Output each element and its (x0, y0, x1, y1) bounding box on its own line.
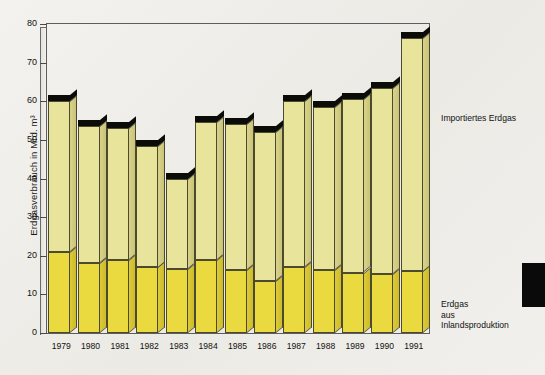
bar-segment-imported-1986 (254, 132, 276, 281)
bar-segment-domestic-1987 (283, 267, 305, 333)
bar-1980 (78, 120, 100, 333)
legend-item-domestic-gas: Erdgas aus Inlandsproduktion (441, 299, 509, 331)
y-axis-tick (40, 63, 47, 64)
bar-segment-domestic-1989 (342, 273, 364, 333)
y-axis-tick-label: 60 (11, 96, 37, 105)
bar-side-domestic-1987 (305, 261, 312, 333)
bar-cap-1987 (283, 95, 305, 101)
bar-segment-domestic-1985 (225, 270, 247, 333)
bar-cap-1983 (166, 173, 188, 179)
bar-side-domestic-1982 (158, 261, 165, 333)
y-axis-tick-label: 30 (11, 212, 37, 221)
bar-side-imported-1985 (247, 119, 254, 271)
y-axis-tick-label: 70 (11, 58, 37, 67)
bar-cap-1984 (195, 116, 217, 122)
y-axis-tick-label: 10 (11, 289, 37, 298)
bar-segment-imported-1991 (401, 38, 423, 272)
y-axis-tick (40, 333, 47, 334)
bar-segment-domestic-1984 (195, 260, 217, 333)
bar-side-imported-1986 (276, 126, 283, 281)
bar-cap-1980 (78, 120, 100, 126)
bar-segment-domestic-1983 (166, 269, 188, 333)
bar-segment-imported-1990 (371, 88, 393, 274)
y-axis-tick (40, 217, 47, 218)
bar-cap-1986 (254, 126, 276, 132)
bar-side-imported-1983 (188, 173, 195, 269)
page-edge-marker (522, 263, 545, 307)
bar-side-imported-1991 (423, 32, 430, 272)
bar-1986 (254, 126, 276, 333)
bar-segment-domestic-1988 (313, 270, 335, 333)
bar-1988 (313, 101, 335, 333)
bar-cap-1989 (342, 93, 364, 99)
bar-segment-imported-1985 (225, 124, 247, 270)
bar-1990 (371, 82, 393, 333)
y-axis-tick-label: 50 (11, 135, 37, 144)
bar-cap-1990 (371, 82, 393, 88)
bar-1981 (107, 122, 129, 333)
bar-segment-domestic-1990 (371, 274, 393, 333)
bar-segment-imported-1988 (313, 107, 335, 270)
y-axis-tick-label: 40 (11, 174, 37, 183)
bar-side-domestic-1988 (335, 265, 342, 333)
bar-side-imported-1988 (335, 101, 342, 270)
bar-segment-imported-1982 (136, 146, 158, 268)
bar-segment-imported-1989 (342, 99, 364, 272)
bar-segment-imported-1984 (195, 122, 217, 260)
y-axis-tick (40, 101, 47, 102)
bar-side-imported-1987 (305, 95, 312, 267)
bar-segment-domestic-1982 (136, 267, 158, 333)
bar-side-domestic-1986 (276, 275, 283, 333)
bar-side-domestic-1990 (393, 268, 400, 333)
bar-segment-imported-1979 (48, 101, 70, 252)
bar-side-imported-1989 (364, 93, 371, 272)
bar-side-imported-1990 (393, 82, 400, 274)
bar-1984 (195, 116, 217, 333)
bar-segment-imported-1981 (107, 128, 129, 260)
legend-item-imported-gas: Importiertes Erdgas (441, 113, 516, 124)
bar-side-imported-1984 (217, 117, 224, 261)
x-axis-tick-label-1991: 1991 (392, 341, 436, 351)
bar-segment-domestic-1986 (254, 281, 276, 333)
y-axis-tick (40, 140, 47, 141)
bar-side-imported-1980 (100, 120, 107, 263)
bar-1982 (136, 140, 158, 333)
bar-cap-1988 (313, 101, 335, 107)
bar-segment-domestic-1979 (48, 252, 70, 333)
bar-side-domestic-1984 (217, 255, 224, 333)
bar-chart: Erdgasverbrauch in Mrd. m³ 0102030405060… (0, 0, 545, 375)
y-axis-tick-label: 0 (11, 328, 37, 337)
y-axis-tick (40, 256, 47, 257)
bar-1983 (166, 173, 188, 334)
y-axis-tick (40, 179, 47, 180)
bar-cap-1979 (48, 95, 70, 101)
bar-segment-imported-1987 (283, 101, 305, 267)
bar-1979 (48, 95, 70, 333)
bar-side-domestic-1980 (100, 258, 107, 333)
bar-side-imported-1981 (129, 122, 136, 260)
bar-segment-domestic-1980 (78, 263, 100, 333)
y-axis-tick-label: 20 (11, 251, 37, 260)
bar-1989 (342, 93, 364, 333)
y-axis-tick-label: 80 (11, 19, 37, 28)
bar-side-domestic-1985 (247, 265, 254, 333)
bar-side-imported-1979 (70, 95, 77, 251)
bar-side-domestic-1991 (423, 265, 430, 333)
bar-cap-1991 (401, 32, 423, 38)
bar-side-domestic-1989 (364, 267, 371, 333)
bar-1985 (225, 118, 247, 333)
bar-side-domestic-1979 (70, 246, 77, 333)
y-axis-tick (40, 24, 47, 25)
bar-1991 (401, 32, 423, 333)
bar-side-domestic-1983 (188, 263, 195, 333)
bar-segment-domestic-1991 (401, 271, 423, 333)
bar-cap-1985 (225, 118, 247, 124)
y-axis-tick (40, 294, 47, 295)
bar-side-domestic-1981 (129, 255, 136, 333)
bar-1987 (283, 95, 305, 333)
bar-cap-1982 (136, 140, 158, 146)
bar-segment-domestic-1981 (107, 260, 129, 333)
bar-segment-imported-1980 (78, 126, 100, 263)
bar-side-imported-1982 (158, 140, 165, 268)
bar-cap-1981 (107, 122, 129, 128)
